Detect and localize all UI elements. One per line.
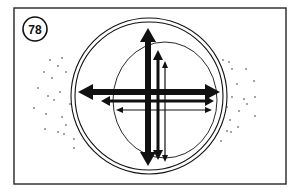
thin-vertical-arrow xyxy=(162,61,168,162)
figure-diagram: 78 xyxy=(0,0,301,192)
figure-number-badge: 78 xyxy=(23,17,47,41)
dots-left xyxy=(33,57,75,149)
thick-vertical-arrow xyxy=(140,28,156,166)
dots-right xyxy=(220,59,256,142)
thin-horizontal-arrow xyxy=(116,107,212,113)
medium-vertical-arrow xyxy=(153,50,163,160)
figure-number: 78 xyxy=(28,23,42,37)
